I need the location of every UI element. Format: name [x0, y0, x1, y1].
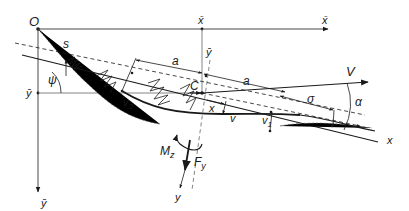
- label-y-axis: y: [174, 191, 182, 203]
- global-axes: [36, 27, 328, 192]
- v2-point: [121, 90, 124, 93]
- label-x-bar-top: x̄: [197, 14, 204, 26]
- sigma-ext: [333, 110, 334, 126]
- dim-a-left-ext1: [122, 58, 136, 91]
- x-axis-dashed: [202, 93, 360, 126]
- label-fy: Fy: [194, 155, 206, 171]
- contact-point-rear: [131, 72, 134, 75]
- tyre-string-model-diagram: O x̄ x̄ ȳ ȳ ȳ s ψ a a C V σ α x x v v1 v…: [0, 0, 409, 211]
- label-x-local: x: [208, 102, 215, 114]
- label-v-velocity: V: [346, 64, 356, 79]
- relaxation-point: [331, 125, 334, 128]
- dim-a-left: [136, 60, 202, 73]
- label-y-bar-left: ȳ: [25, 87, 33, 99]
- label-a-right: a: [243, 74, 250, 88]
- local-y-arrow: [180, 170, 185, 188]
- label-c: C: [190, 79, 199, 93]
- v1-top-point: [270, 111, 273, 114]
- v1-bottom-point: [269, 130, 272, 133]
- velocity-vector: [202, 82, 368, 93]
- deformed-string-tail: [300, 115, 375, 131]
- label-y-bar-local: ȳ: [205, 46, 213, 58]
- label-alpha: α: [355, 95, 363, 109]
- label-x-axis: x: [386, 134, 393, 146]
- alpha-arc: [344, 83, 350, 130]
- force-fy-arrow: [185, 140, 190, 170]
- label-origin: O: [29, 14, 39, 29]
- spring-3: [148, 79, 170, 105]
- label-sigma: σ: [307, 92, 315, 106]
- label-y-bar-bottom: ȳ: [40, 197, 48, 209]
- label-a-left: a: [172, 54, 179, 68]
- v-deflection: [223, 101, 226, 114]
- label-mz: Mz: [160, 144, 175, 160]
- label-psi: ψ: [48, 73, 57, 87]
- label-x-bar-right: x̄: [321, 14, 328, 26]
- label-s: s: [63, 37, 69, 51]
- contact-point-center: [205, 75, 208, 78]
